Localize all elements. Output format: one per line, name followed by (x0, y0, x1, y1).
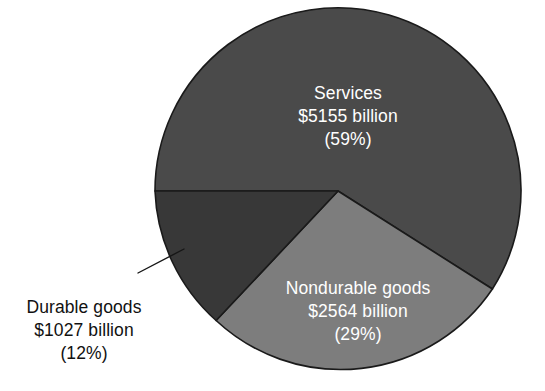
slice-label-services-percent: (59%) (238, 128, 458, 151)
slice-label-durable-goods-percent: (12%) (4, 342, 164, 365)
slice-label-nondurable-goods-value: $2564 billion (258, 300, 458, 323)
slice-label-nondurable-goods-name: Nondurable goods (258, 277, 458, 300)
slice-label-durable-goods-name: Durable goods (4, 296, 164, 319)
slice-label-nondurable-goods-percent: (29%) (258, 323, 458, 346)
pie-chart-figure: Services $5155 billion (59%) Nondurable … (0, 0, 545, 391)
slice-label-services-name: Services (238, 82, 458, 105)
slice-label-services: Services $5155 billion (59%) (238, 82, 458, 150)
slice-label-durable-goods-value: $1027 billion (4, 319, 164, 342)
slice-label-services-value: $5155 billion (238, 105, 458, 128)
slice-label-nondurable-goods: Nondurable goods $2564 billion (29%) (258, 277, 458, 345)
slice-label-durable-goods: Durable goods $1027 billion (12%) (4, 296, 164, 364)
